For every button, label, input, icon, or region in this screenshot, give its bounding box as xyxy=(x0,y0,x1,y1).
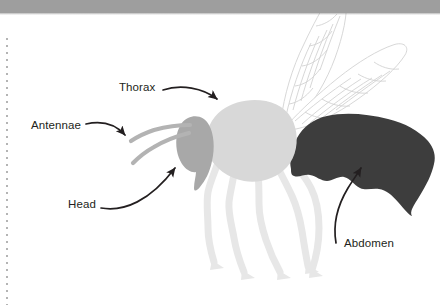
dotted-margin-rule xyxy=(6,38,8,305)
leg-1 xyxy=(207,160,219,262)
head-arrow xyxy=(101,168,175,209)
tarsus-5 xyxy=(309,268,323,278)
label-head: Head xyxy=(68,199,96,211)
insect-anatomy-illustration xyxy=(0,0,440,305)
page-header-bar-shadow xyxy=(0,13,440,15)
label-thorax: Thorax xyxy=(119,82,155,94)
tarsus-3 xyxy=(277,270,291,280)
leg-3 xyxy=(258,170,280,272)
figure-canvas: Thorax Antennae Head Abdomen xyxy=(0,0,440,305)
page-header-bar xyxy=(0,0,440,13)
wings-group xyxy=(281,0,407,129)
antennae-arrow xyxy=(86,123,125,135)
tarsus-2 xyxy=(241,270,255,280)
abdomen-shape xyxy=(290,114,434,216)
label-antennae: Antennae xyxy=(31,120,81,132)
thorax-arrow xyxy=(163,87,217,99)
label-abdomen: Abdomen xyxy=(344,238,394,250)
leg-2 xyxy=(229,168,244,272)
thorax-shape xyxy=(207,100,297,182)
